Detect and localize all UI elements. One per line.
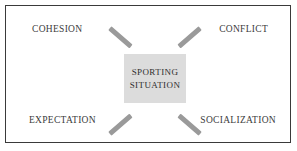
center-node-line-2: SITUATION <box>130 79 181 91</box>
diagram-frame: COHESION CONFLICT EXPECTATION SOCIALIZAT… <box>5 5 291 143</box>
corner-label-conflict: CONFLICT <box>219 25 268 35</box>
corner-label-socialization: SOCIALIZATION <box>200 116 276 126</box>
center-node-sporting-situation: SPORTING SITUATION <box>124 54 186 103</box>
connector-conflict-bar <box>177 26 201 48</box>
connector-socialization-bar <box>177 114 201 136</box>
corner-label-expectation: EXPECTATION <box>29 116 96 126</box>
connector-cohesion-bar <box>108 26 132 48</box>
corner-label-cohesion: COHESION <box>32 25 82 35</box>
center-node-line-1: SPORTING <box>132 66 179 78</box>
connector-expectation-bar <box>108 114 132 136</box>
